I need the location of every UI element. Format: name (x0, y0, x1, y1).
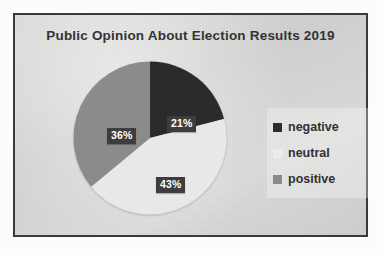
pie-label-negative: 21% (167, 116, 196, 132)
chart-frame: Public Opinion About Election Results 20… (13, 13, 368, 237)
legend-label-negative: negative (288, 120, 339, 134)
legend-swatch-negative (273, 123, 282, 132)
chart-legend: negative neutral positive (267, 108, 373, 198)
pie-chart (72, 60, 228, 216)
legend-item-negative[interactable]: negative (273, 114, 369, 140)
legend-swatch-neutral (273, 149, 282, 158)
legend-label-neutral: neutral (288, 146, 330, 160)
legend-label-positive: positive (288, 172, 335, 186)
chart-title: Public Opinion About Election Results 20… (15, 28, 366, 43)
page-background: Public Opinion About Election Results 20… (0, 0, 383, 255)
legend-item-positive[interactable]: positive (273, 166, 369, 192)
pie-label-neutral: 43% (156, 177, 185, 193)
pie-svg (72, 60, 228, 216)
legend-item-neutral[interactable]: neutral (273, 140, 369, 166)
legend-swatch-positive (273, 175, 282, 184)
pie-label-positive: 36% (107, 128, 136, 144)
